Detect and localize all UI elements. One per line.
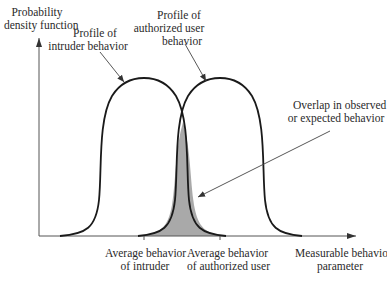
y-axis-label-line-1: Probability — [4, 6, 70, 19]
overlap-label-line-1: Overlap in observed — [287, 99, 385, 112]
overlap-label-line-2: or expected behavior — [287, 112, 385, 125]
authorized-label-line-2: authorized user — [131, 22, 207, 35]
authorized-label-line-1: Profile of — [131, 9, 207, 22]
avg-authorized-label-line-1: Average behavior — [187, 247, 265, 260]
avg-authorized-label-line-2: of authorized user — [187, 260, 265, 273]
avg-intruder-label-line-1: Average behavior — [105, 247, 185, 260]
authorized-label-line-3: behavior — [131, 35, 207, 48]
overlap-region — [138, 122, 226, 236]
avg-intruder-label: Average behavior of intruder — [105, 247, 185, 273]
avg-intruder-label-line-2: of intruder — [105, 260, 185, 273]
x-axis-label: Measurable behavior parameter — [295, 247, 385, 273]
intruder-label-arrow — [100, 52, 124, 82]
avg-authorized-label: Average behavior of authorized user — [187, 247, 265, 273]
intruder-curve — [60, 78, 226, 236]
authorized-label-arrow — [185, 44, 206, 81]
x-axis-label-line-2: parameter — [295, 260, 385, 273]
authorized-profile-label: Profile of authorized user behavior — [131, 9, 207, 48]
intruder-label-line-1: Profile of — [48, 27, 128, 40]
overlap-label: Overlap in observed or expected behavior — [287, 99, 385, 125]
intruder-profile-label: Profile of intruder behavior — [48, 27, 128, 53]
intruder-label-line-2: intruder behavior — [48, 40, 128, 53]
x-axis-label-line-1: Measurable behavior — [295, 247, 385, 260]
